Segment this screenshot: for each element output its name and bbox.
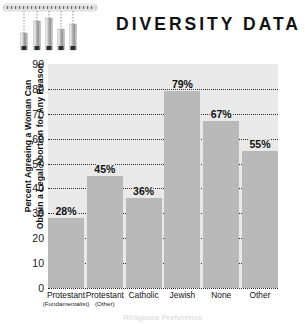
x-axis-sublabel: (Fundamentalist) <box>43 300 89 308</box>
chart-caption: Religious Preference <box>48 313 278 322</box>
bar-slot: 67% <box>203 64 239 288</box>
x-axis-label: Jewish <box>170 290 196 300</box>
plot-area: 28%45%36%79%67%55% <box>48 64 278 288</box>
bar-slot: 45% <box>87 64 123 288</box>
x-axis-label: Catholic <box>128 290 158 300</box>
y-axis-tick-label: 60 <box>22 134 44 144</box>
bar-value-label: 28% <box>55 205 76 217</box>
y-axis-tick-label: 70 <box>22 109 44 119</box>
bar[interactable] <box>48 218 84 288</box>
y-axis-tick-label: 0 <box>22 283 44 293</box>
bar-slot: 55% <box>242 64 278 288</box>
bar-chart: Percent Agreeing a Woman Can Obtain a Le… <box>0 55 305 324</box>
x-axis-label: Other <box>250 290 271 300</box>
bar-series: 28%45%36%79%67%55% <box>48 64 278 288</box>
bar[interactable] <box>164 91 200 288</box>
gridline <box>48 288 278 289</box>
bar[interactable] <box>126 198 162 288</box>
page-title: DIVERSITY DATA <box>116 14 301 35</box>
x-axis-label: Protestant <box>47 290 85 300</box>
bar[interactable] <box>203 121 239 288</box>
bar-value-label: 55% <box>249 138 270 150</box>
y-axis-tick-label: 50 <box>22 159 44 169</box>
y-axis-tick-label: 30 <box>22 208 44 218</box>
bar-value-label: 67% <box>211 108 232 120</box>
y-axis-ticks: 0102030405060708090 <box>22 59 44 288</box>
bar-slot: 79% <box>164 64 200 288</box>
bar-value-label: 36% <box>133 185 154 197</box>
y-axis-tick-label: 40 <box>22 183 44 193</box>
y-axis-tick-label: 80 <box>22 84 44 94</box>
y-axis-tick-label: 90 <box>22 59 44 69</box>
bar-slot: 36% <box>126 64 162 288</box>
x-axis-label: Protestant <box>86 290 124 300</box>
bar-value-label: 45% <box>94 163 115 175</box>
x-axis-sublabel: (Other) <box>95 300 115 308</box>
y-axis-tick-label: 20 <box>22 233 44 243</box>
bar[interactable] <box>87 176 123 288</box>
bar-slot: 28% <box>48 64 84 288</box>
y-axis-tick-label: 10 <box>22 258 44 268</box>
x-axis-label: None <box>211 290 231 300</box>
bar-value-label: 79% <box>172 78 193 90</box>
bar[interactable] <box>242 151 278 288</box>
